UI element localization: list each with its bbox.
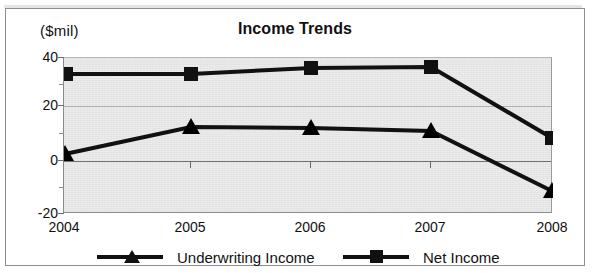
y-tick-label-0: 0 — [14, 153, 58, 167]
x-tick-label-2008: 2008 — [517, 219, 587, 235]
x-tick-label-2004: 2004 — [29, 219, 99, 235]
legend-label-underwriting-income: Underwriting Income — [177, 249, 315, 266]
x-tick-label-2006: 2006 — [275, 219, 345, 235]
x-tick-2007 — [430, 161, 431, 168]
legend-marker-underwriting-income — [97, 244, 163, 270]
x-tick-2006 — [310, 161, 311, 168]
triangle-marker-icon — [124, 250, 140, 263]
y-tick-0 — [58, 160, 64, 161]
y-tick-10 — [59, 133, 64, 134]
square-marker-icon — [370, 250, 383, 263]
y-tick-label-20: 20 — [14, 98, 58, 112]
legend-item-underwriting-income: Underwriting Income — [97, 244, 315, 270]
chart-legend: Underwriting Income Net Income — [0, 244, 597, 270]
y-tick-40 — [58, 57, 64, 58]
income-trends-chart: ($mil) Income Trends 40 20 0 — [0, 0, 597, 273]
y-tick-30 — [59, 84, 64, 85]
x-tick-label-2005: 2005 — [155, 219, 225, 235]
y-tick-neg10 — [59, 187, 64, 188]
y-tick-label-neg20: -20 — [14, 206, 58, 220]
legend-item-net-income: Net Income — [343, 244, 500, 270]
y-tick-20 — [58, 105, 64, 106]
legend-marker-net-income — [343, 244, 409, 270]
x-tick-label-2007: 2007 — [395, 219, 465, 235]
x-tick-2005 — [190, 161, 191, 168]
y-tick-label-40: 40 — [14, 50, 58, 64]
y-tick-neg20 — [58, 213, 64, 214]
legend-label-net-income: Net Income — [423, 249, 500, 266]
